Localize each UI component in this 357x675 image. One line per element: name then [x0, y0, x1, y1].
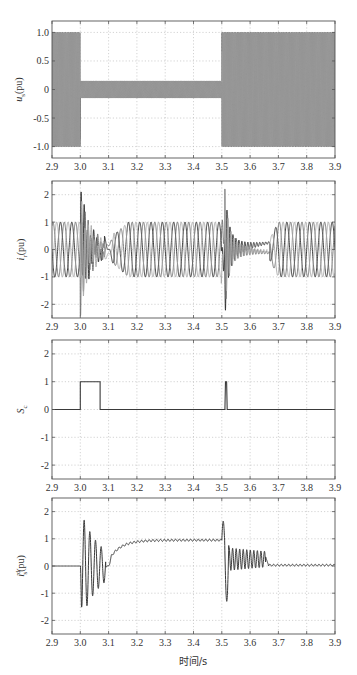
x-axis-title: 时间/s	[179, 655, 208, 667]
y-tick-label: 1	[44, 217, 49, 228]
x-tick-label: 3.7	[272, 637, 285, 648]
y-tick-label: -1	[41, 588, 49, 599]
y-tick-label: -2	[41, 615, 49, 626]
panel-sc: 2.93.03.13.23.33.43.53.63.73.83.9210-1-2…	[15, 340, 341, 493]
x-tick-label: 3.7	[272, 482, 285, 493]
x-tick-label: 2.9	[46, 321, 59, 332]
y-label-unit: (pu)	[15, 555, 27, 572]
panel-us: 2.93.03.13.23.33.43.53.63.73.83.91.00.50…	[13, 21, 341, 172]
x-tick-label: 3.2	[131, 637, 144, 648]
series-phase-a	[52, 192, 335, 310]
x-tick-label: 2.9	[46, 482, 59, 493]
y-tick-label: -2	[41, 460, 49, 471]
x-tick-label: 3.6	[244, 161, 257, 172]
y-tick-label: 1	[44, 376, 49, 387]
x-tick-label: 3.5	[216, 637, 229, 648]
x-tick-label: 3.3	[159, 321, 172, 332]
y-axis-label: us(pu)	[13, 77, 27, 101]
x-tick-label: 3.7	[272, 161, 285, 172]
x-tick-label: 3.6	[244, 482, 257, 493]
x-tick-label: 3.9	[329, 161, 342, 172]
panel-isd: 2.93.03.13.23.33.43.53.63.73.83.9210-1-2…	[14, 498, 341, 648]
y-tick-label: 0	[44, 244, 49, 255]
x-tick-label: 2.9	[46, 637, 59, 648]
y-tick-label: 0.5	[37, 55, 50, 66]
y-tick-label: -1	[41, 432, 49, 443]
x-tick-label: 3.2	[131, 482, 144, 493]
x-tick-label: 3.5	[216, 161, 229, 172]
y-axis-label: Sc	[15, 405, 29, 413]
x-tick-label: 3.4	[187, 161, 200, 172]
x-tick-label: 3.1	[102, 161, 115, 172]
plot-area	[52, 32, 335, 146]
x-tick-label: 3.2	[131, 321, 144, 332]
y-tick-label: 1.0	[37, 27, 50, 38]
x-tick-label: 3.5	[216, 321, 229, 332]
y-tick-label: 0	[44, 561, 49, 572]
y-tick-label: -0.5	[33, 113, 49, 124]
y-label-unit: (pu)	[13, 77, 25, 94]
x-tick-label: 3.1	[102, 637, 115, 648]
y-tick-label: 0	[44, 84, 49, 95]
y-tick-label: 2	[44, 348, 49, 359]
x-tick-label: 3.6	[244, 637, 257, 648]
y-label-unit: (pu)	[15, 239, 27, 256]
series-phase-c	[52, 32, 335, 146]
x-tick-label: 3.0	[74, 321, 87, 332]
x-tick-label: 3.0	[74, 482, 87, 493]
x-tick-label: 3.9	[329, 637, 342, 648]
panel-ir: 2.93.03.13.23.33.43.53.63.73.83.9210-1-2…	[15, 181, 341, 332]
x-tick-label: 3.1	[102, 321, 115, 332]
x-tick-label: 3.6	[244, 321, 257, 332]
y-tick-label: -1	[41, 271, 49, 282]
figure: 2.93.03.13.23.33.43.53.63.73.83.91.00.50…	[0, 0, 357, 675]
y-tick-label: 0	[44, 404, 49, 415]
x-tick-label: 3.8	[300, 637, 313, 648]
x-tick-label: 3.9	[329, 321, 342, 332]
y-axis-label: ir(pu)	[15, 239, 29, 261]
x-tick-label: 3.3	[159, 637, 172, 648]
x-tick-label: 3.9	[329, 482, 342, 493]
x-tick-label: 3.4	[187, 482, 200, 493]
x-tick-label: 3.0	[74, 637, 87, 648]
y-tick-label: -2	[41, 299, 49, 310]
x-tick-label: 3.5	[216, 482, 229, 493]
x-tick-label: 3.0	[74, 161, 87, 172]
x-tick-label: 3.8	[300, 321, 313, 332]
y-tick-label: 2	[44, 189, 49, 200]
x-tick-label: 3.7	[272, 321, 285, 332]
x-tick-label: 3.4	[187, 637, 200, 648]
y-tick-label: 2	[44, 506, 49, 517]
x-tick-label: 3.4	[187, 321, 200, 332]
x-tick-label: 3.8	[300, 482, 313, 493]
x-tick-label: 3.8	[300, 161, 313, 172]
y-tick-label: -1.0	[33, 141, 49, 152]
y-tick-label: 1	[44, 533, 49, 544]
x-tick-label: 2.9	[46, 161, 59, 172]
y-axis-label: ids(pu)	[14, 555, 29, 577]
y-label-sub: c	[21, 405, 29, 408]
x-tick-label: 3.3	[159, 161, 172, 172]
x-tick-label: 3.3	[159, 482, 172, 493]
x-tick-label: 3.2	[131, 161, 144, 172]
x-tick-label: 3.1	[102, 482, 115, 493]
